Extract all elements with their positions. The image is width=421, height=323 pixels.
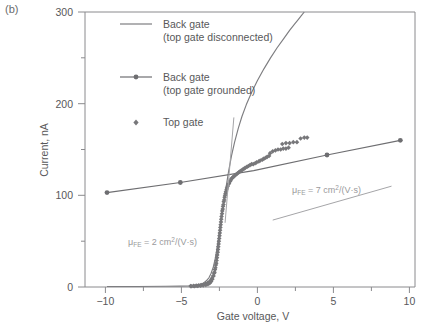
legend-label-back-gate-grounded-line1: Back gate (163, 71, 210, 83)
legend-label-back-gate-disconnected-line1: Back gate (163, 18, 210, 30)
x-tick-label-0: 0 (254, 295, 260, 307)
legend-swatch-top-gate-diamond (133, 120, 138, 126)
y-axis-ticks (78, 12, 85, 287)
y-tick-label-300: 300 (55, 6, 73, 18)
legend-label-back-gate-grounded-line2: (top gate grounded) (163, 84, 255, 96)
annotation-text: μFE = 2 cm2/(V·s) (128, 236, 197, 248)
x-axis-ticks (105, 287, 409, 293)
data-point-marker (398, 138, 403, 143)
series-top-gate (188, 135, 309, 288)
data-point-marker (178, 180, 183, 185)
legend-label-back-gate-disconnected-line2: (top gate disconnected) (163, 31, 273, 43)
data-point-marker (217, 233, 222, 238)
x-tick-label-minus10: −10 (96, 295, 114, 307)
data-point-marker (280, 142, 285, 147)
x-tick-labels: −10 −5 0 5 10 (96, 295, 415, 307)
data-point-marker (325, 153, 330, 158)
legend-label-top-gate: Top gate (163, 116, 203, 128)
data-point-marker (287, 141, 292, 146)
data-point-marker (219, 217, 224, 222)
data-point-marker (105, 190, 110, 195)
y-tick-label-200: 200 (55, 98, 73, 110)
chart-svg: 0 100 200 300 −10 −5 0 5 10 Gate voltage… (0, 0, 421, 323)
annotation-text: μFE = 7 cm2/(V·s) (292, 184, 361, 196)
x-axis-title: Gate voltage, V (217, 310, 289, 322)
y-axis-title: Current, nA (38, 123, 50, 177)
x-tick-label-5: 5 (330, 295, 336, 307)
x-tick-label-minus5: −5 (175, 295, 187, 307)
data-point-marker (298, 136, 303, 141)
annotation-mobility-back-gate: μFE = 7 cm2/(V·s) (273, 184, 392, 220)
y-tick-labels: 0 100 200 300 (55, 6, 73, 293)
y-tick-label-100: 100 (55, 189, 73, 201)
data-series-layer (105, 12, 403, 289)
legend: Back gate (top gate disconnected) Back g… (120, 18, 273, 128)
data-point-marker (218, 228, 223, 233)
tangent-line (225, 117, 234, 222)
figure-panel-b: (b) 0 100 200 300 (0, 0, 421, 323)
data-point-marker (218, 222, 223, 227)
annotation-layer: μFE = 2 cm2/(V·s)μFE = 7 cm2/(V·s) (128, 117, 392, 248)
data-point-marker (220, 211, 225, 216)
data-point-marker (295, 140, 300, 145)
x-tick-label-10: 10 (404, 295, 416, 307)
data-point-marker (305, 135, 310, 140)
y-tick-label-0: 0 (67, 281, 73, 293)
legend-swatch-back-gate-grounded-marker (134, 75, 139, 80)
